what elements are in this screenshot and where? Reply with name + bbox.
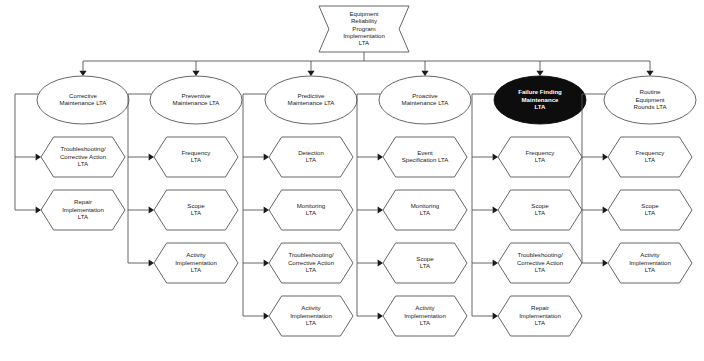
- node-label-line: LTA: [535, 319, 546, 326]
- node-label-line: Monitoring: [297, 202, 325, 209]
- arrowhead-right-icon: [603, 259, 608, 266]
- node-label-line: Repair: [74, 198, 92, 205]
- arrowhead-down-icon: [421, 71, 428, 76]
- node-label-line: LTA: [645, 209, 656, 216]
- node-label-line: LTA: [420, 262, 431, 269]
- node-label-line: Activity: [415, 304, 435, 311]
- node-label-line: LTA: [306, 266, 317, 273]
- node-label-line: Activity: [186, 251, 206, 258]
- node-label-line: Event: [417, 149, 433, 156]
- arrowhead-right-icon: [493, 153, 498, 160]
- node-label-line: Reliability: [351, 17, 378, 24]
- node-label-line: Preventive: [182, 92, 211, 99]
- node-label-line: Frequency: [526, 149, 556, 156]
- node-label-line: Implementation: [519, 312, 561, 319]
- node-label-line: Corrective: [69, 92, 97, 99]
- node-label-line: LTA: [535, 209, 546, 216]
- node-label-line: Scope: [187, 202, 205, 209]
- node-label-line: Maintenance LTA: [173, 99, 221, 106]
- node-label-line: Predictive: [298, 92, 325, 99]
- arrowhead-down-icon: [307, 71, 314, 76]
- node-label-line: Equipment: [635, 96, 664, 103]
- arrowhead-down-icon: [646, 71, 653, 76]
- node-label-line: Monitoring: [411, 202, 439, 209]
- arrowhead-right-icon: [264, 153, 269, 160]
- arrowhead-right-icon: [493, 259, 498, 266]
- node-label-line: LTA: [535, 156, 546, 163]
- node-label-line: Implementation: [404, 312, 446, 319]
- arrowhead-right-icon: [264, 259, 269, 266]
- node-label-line: Frequency: [182, 149, 212, 156]
- node-label-line: LTA: [420, 209, 431, 216]
- node-label-line: LTA: [191, 156, 202, 163]
- node-label-line: LTA: [306, 209, 317, 216]
- node-label-line: Activity: [640, 251, 660, 258]
- arrowhead-right-icon: [264, 206, 269, 213]
- node-label-line: Scope: [416, 255, 434, 262]
- node-label-line: Implementation: [629, 259, 671, 266]
- flowchart-canvas: EquipmentReliabilityProgramImplementatio…: [0, 0, 704, 361]
- arrowhead-right-icon: [149, 206, 154, 213]
- node-label-line: Program: [352, 25, 375, 32]
- arrowhead-right-icon: [149, 153, 154, 160]
- node-label-line: Maintenance LTA: [402, 99, 450, 106]
- node-label-line: LTA: [78, 213, 89, 220]
- arrowhead-right-icon: [36, 206, 41, 213]
- node-label-line: Failure Finding: [518, 88, 562, 95]
- node-label-line: Corrective Action: [288, 259, 334, 266]
- node-label-line: Scope: [531, 202, 549, 209]
- arrowhead-right-icon: [603, 153, 608, 160]
- node-label-line: Detection: [298, 149, 324, 156]
- arrowhead-down-icon: [536, 71, 543, 76]
- arrowhead-right-icon: [493, 206, 498, 213]
- node-label-line: LTA: [535, 103, 547, 110]
- node-label-line: Maintenance LTA: [288, 99, 336, 106]
- node-label-line: Implementation: [175, 259, 217, 266]
- node-label-line: Activity: [301, 304, 321, 311]
- node-label-line: Maintenance: [522, 96, 560, 103]
- node-label-line: Frequency: [636, 149, 666, 156]
- node-label-line: Troubleshooting/: [288, 251, 333, 258]
- node-label-line: LTA: [306, 156, 317, 163]
- node-label-line: Routine: [639, 88, 661, 95]
- node-label-line: Maintenance LTA: [60, 99, 108, 106]
- node-label-line: LTA: [191, 266, 202, 273]
- node-label-line: LTA: [645, 266, 656, 273]
- node-label-line: Implementation: [290, 312, 332, 319]
- arrowhead-right-icon: [378, 206, 383, 213]
- node-label-line: Corrective Action: [60, 153, 106, 160]
- arrowhead-right-icon: [493, 312, 498, 319]
- arrowhead-right-icon: [378, 153, 383, 160]
- node-label-line: Specification LTA: [402, 156, 449, 163]
- flowchart-diagram: EquipmentReliabilityProgramImplementatio…: [0, 0, 704, 361]
- arrowhead-right-icon: [36, 153, 41, 160]
- arrowhead-right-icon: [378, 312, 383, 319]
- arrowhead-right-icon: [378, 259, 383, 266]
- node-label-line: Equipment: [349, 10, 378, 17]
- arrowhead-down-icon: [192, 71, 199, 76]
- node-label-line: LTA: [359, 39, 370, 46]
- node-label-line: Proactive: [412, 92, 438, 99]
- node-label-line: LTA: [306, 319, 317, 326]
- arrowhead-down-icon: [79, 71, 86, 76]
- node-label-line: Implementation: [62, 206, 104, 213]
- node-label-line: Troubleshooting/: [60, 145, 105, 152]
- node-label-line: LTA: [535, 266, 546, 273]
- node-label-line: Scope: [641, 202, 659, 209]
- arrowhead-right-icon: [149, 259, 154, 266]
- node-label-line: LTA: [420, 319, 431, 326]
- arrowhead-right-icon: [264, 312, 269, 319]
- arrowhead-right-icon: [603, 206, 608, 213]
- node-label-line: Corrective Action: [517, 259, 563, 266]
- node-label-line: Implementation: [343, 32, 385, 39]
- node-label-line: LTA: [78, 160, 89, 167]
- node-label-line: LTA: [191, 209, 202, 216]
- node-label-line: Troubleshooting/: [517, 251, 562, 258]
- node-label-line: Repair: [531, 304, 549, 311]
- node-label-line: Rounds LTA: [634, 103, 668, 110]
- node-label-line: LTA: [645, 156, 656, 163]
